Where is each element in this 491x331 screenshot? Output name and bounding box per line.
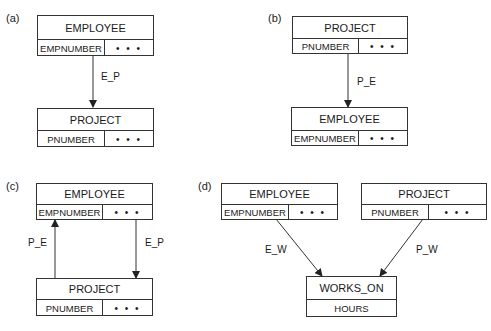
ellipsis-icon: • • • — [105, 40, 153, 56]
ellipsis-icon: • • • — [359, 39, 407, 54]
entity-employee-c: EMPLOYEE EMPNUMBER • • • — [36, 183, 153, 220]
ellipsis-icon: • • • — [359, 131, 407, 146]
entity-project-c: PROJECT PNUMBER • • • — [36, 278, 153, 316]
entity-employee-d: EMPLOYEE EMPNUMBER • • • — [221, 183, 338, 220]
ellipsis-icon: • • • — [103, 205, 152, 220]
entity-key-attribute: EMPNUMBER — [292, 131, 359, 146]
entity-employee-b: EMPLOYEE EMPNUMBER • • • — [291, 107, 408, 146]
relationship-label: P_E — [357, 76, 376, 87]
entity-key-attribute: PNUMBER — [293, 39, 359, 54]
entity-key-attribute: PNUMBER — [362, 205, 429, 220]
entity-title: EMPLOYEE — [292, 108, 407, 131]
entity-title: EMPLOYEE — [222, 184, 337, 205]
entity-title: PROJECT — [293, 17, 407, 39]
ellipsis-icon: • • • — [103, 300, 152, 316]
entity-title: WORKS_ON — [307, 277, 396, 300]
relationship-label: P_E — [28, 237, 47, 248]
entity-title: EMPLOYEE — [38, 16, 153, 40]
relationship-label: E_P — [101, 71, 120, 82]
entity-title: PROJECT — [37, 279, 152, 300]
entity-project-a: PROJECT PNUMBER • • • — [37, 108, 154, 147]
entity-key-attribute: EMPNUMBER — [38, 40, 105, 56]
relationship-label: E_P — [145, 237, 164, 248]
panel-label-b: (b) — [268, 12, 281, 24]
ellipsis-icon: • • • — [105, 131, 153, 147]
entity-project-d: PROJECT PNUMBER • • • — [361, 183, 487, 220]
entity-attribute: HOURS — [307, 300, 396, 316]
relationship-label: E_W — [265, 244, 287, 255]
panel-label-c: (c) — [6, 180, 19, 192]
ellipsis-icon: • • • — [429, 205, 486, 220]
entity-title: PROJECT — [38, 109, 153, 131]
entity-project-b: PROJECT PNUMBER • • • — [292, 16, 408, 54]
entity-key-attribute: PNUMBER — [37, 300, 103, 316]
entity-title: EMPLOYEE — [37, 184, 152, 205]
ellipsis-icon: • • • — [289, 205, 337, 220]
entity-key-attribute: PNUMBER — [38, 131, 105, 147]
entity-key-attribute: EMPNUMBER — [37, 205, 103, 220]
entity-employee-a: EMPLOYEE EMPNUMBER • • • — [37, 15, 154, 56]
entity-title: PROJECT — [362, 184, 486, 205]
panel-label-d: (d) — [198, 180, 211, 192]
relationship-label: P_W — [416, 244, 438, 255]
entity-key-attribute: EMPNUMBER — [222, 205, 289, 220]
panel-label-a: (a) — [6, 12, 19, 24]
entity-works-on-d: WORKS_ON HOURS — [306, 276, 397, 317]
